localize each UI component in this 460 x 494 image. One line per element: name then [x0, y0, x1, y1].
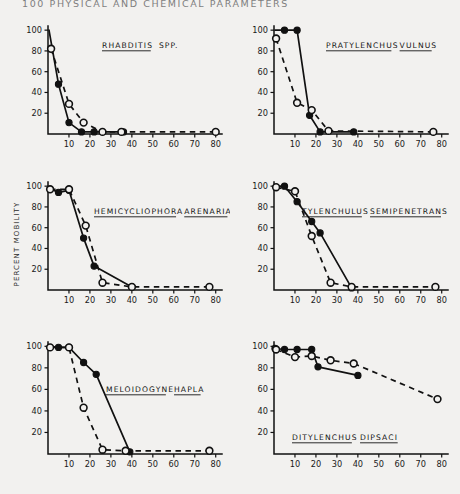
svg-text:30: 30: [106, 295, 116, 305]
svg-text:20: 20: [32, 264, 42, 274]
svg-text:10: 10: [290, 459, 300, 469]
figure-page: 100 PHYSICAL AND CHEMICAL PARAMETERS PER…: [0, 0, 460, 494]
svg-text:60: 60: [32, 223, 42, 233]
svg-text:100: 100: [252, 25, 268, 35]
svg-text:40: 40: [258, 406, 268, 416]
svg-text:60: 60: [32, 67, 42, 77]
svg-text:100: 100: [252, 341, 268, 351]
svg-text:50: 50: [148, 139, 158, 149]
panel-1: 100806040201020304050607080RHABDITISSPP.: [14, 14, 230, 162]
svg-text:40: 40: [127, 295, 137, 305]
svg-text:30: 30: [332, 139, 342, 149]
svg-text:40: 40: [258, 243, 268, 253]
svg-text:20: 20: [258, 108, 268, 118]
svg-text:40: 40: [32, 406, 42, 416]
svg-text:60: 60: [395, 295, 405, 305]
panel-6: 100806040201020304050607080DITYLENCHUSDI…: [240, 330, 456, 482]
svg-text:80: 80: [258, 202, 268, 212]
panel-4: 100806040201020304050607080TYLENCHULUSSE…: [240, 170, 456, 318]
svg-text:SEMIPENETRANS: SEMIPENETRANS: [370, 207, 448, 216]
panel-2: 100806040201020304050607080PRATYLENCHUSV…: [240, 14, 456, 162]
running-head: 100 PHYSICAL AND CHEMICAL PARAMETERS: [22, 0, 289, 9]
svg-text:70: 70: [416, 459, 426, 469]
svg-text:60: 60: [169, 295, 179, 305]
svg-text:40: 40: [353, 295, 363, 305]
svg-text:SPP.: SPP.: [159, 41, 179, 50]
svg-text:80: 80: [258, 363, 268, 373]
svg-text:PRATYLENCHUS: PRATYLENCHUS: [326, 41, 399, 50]
svg-text:HEMICYCLIOPHORA: HEMICYCLIOPHORA: [94, 207, 183, 216]
svg-text:20: 20: [85, 295, 95, 305]
svg-text:50: 50: [374, 459, 384, 469]
svg-text:50: 50: [148, 459, 158, 469]
svg-text:60: 60: [395, 459, 405, 469]
svg-text:MELOIDOGYNE: MELOIDOGYNE: [106, 385, 174, 394]
panel-5: 100806040201020304050607080MELOIDOGYNEHA…: [14, 330, 230, 482]
svg-text:10: 10: [290, 295, 300, 305]
svg-text:20: 20: [311, 459, 321, 469]
svg-text:80: 80: [210, 459, 220, 469]
svg-text:30: 30: [332, 459, 342, 469]
svg-text:RHABDITIS: RHABDITIS: [102, 41, 153, 50]
svg-text:DITYLENCHUS: DITYLENCHUS: [292, 433, 358, 442]
svg-text:80: 80: [32, 202, 42, 212]
svg-text:100: 100: [26, 25, 42, 35]
svg-text:100: 100: [252, 181, 268, 191]
svg-text:60: 60: [395, 139, 405, 149]
svg-text:80: 80: [258, 46, 268, 56]
svg-text:20: 20: [311, 295, 321, 305]
svg-text:50: 50: [148, 295, 158, 305]
svg-text:60: 60: [258, 384, 268, 394]
svg-text:10: 10: [64, 295, 74, 305]
svg-text:100: 100: [26, 181, 42, 191]
svg-text:70: 70: [190, 139, 200, 149]
svg-text:40: 40: [32, 87, 42, 97]
svg-text:70: 70: [416, 139, 426, 149]
svg-text:20: 20: [258, 264, 268, 274]
svg-text:ARENARIA: ARENARIA: [184, 207, 230, 216]
svg-text:20: 20: [32, 427, 42, 437]
svg-text:60: 60: [32, 384, 42, 394]
svg-text:40: 40: [127, 459, 137, 469]
svg-text:60: 60: [258, 67, 268, 77]
svg-text:20: 20: [85, 139, 95, 149]
svg-text:TYLENCHULUS: TYLENCHULUS: [301, 207, 369, 216]
svg-text:10: 10: [64, 459, 74, 469]
svg-text:10: 10: [64, 139, 74, 149]
svg-text:60: 60: [169, 139, 179, 149]
svg-text:20: 20: [311, 139, 321, 149]
svg-text:80: 80: [32, 363, 42, 373]
panel-3: 100806040201020304050607080HEMICYCLIOPHO…: [14, 170, 230, 318]
svg-text:40: 40: [353, 459, 363, 469]
svg-text:20: 20: [258, 427, 268, 437]
svg-text:20: 20: [32, 108, 42, 118]
svg-text:30: 30: [106, 139, 116, 149]
svg-text:40: 40: [32, 243, 42, 253]
svg-text:40: 40: [258, 87, 268, 97]
svg-text:40: 40: [127, 139, 137, 149]
svg-text:30: 30: [106, 459, 116, 469]
svg-text:HAPLA: HAPLA: [174, 385, 205, 394]
svg-text:60: 60: [169, 459, 179, 469]
svg-text:20: 20: [85, 459, 95, 469]
svg-text:DIPSACI: DIPSACI: [360, 433, 398, 442]
svg-text:70: 70: [190, 295, 200, 305]
svg-text:50: 50: [374, 139, 384, 149]
svg-text:30: 30: [332, 295, 342, 305]
svg-text:70: 70: [416, 295, 426, 305]
svg-text:50: 50: [374, 295, 384, 305]
svg-text:60: 60: [258, 223, 268, 233]
svg-text:80: 80: [436, 139, 446, 149]
svg-text:80: 80: [210, 295, 220, 305]
svg-text:70: 70: [190, 459, 200, 469]
svg-text:80: 80: [32, 46, 42, 56]
svg-text:10: 10: [290, 139, 300, 149]
svg-text:40: 40: [353, 139, 363, 149]
svg-text:80: 80: [436, 459, 446, 469]
svg-text:80: 80: [210, 139, 220, 149]
svg-text:80: 80: [436, 295, 446, 305]
svg-text:100: 100: [26, 341, 42, 351]
svg-text:VULNUS: VULNUS: [400, 41, 438, 50]
